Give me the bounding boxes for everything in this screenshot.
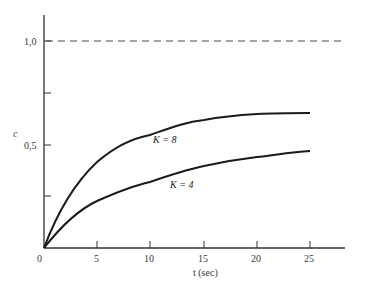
series-label-k4: K = 4 <box>169 179 193 190</box>
y-axis-label: c <box>13 128 18 139</box>
x-axis-label: t (sec) <box>193 267 218 279</box>
series-label-k8: K = 8 <box>152 134 176 145</box>
x-tick-label-20: 20 <box>251 253 261 264</box>
x-tick-label-5: 5 <box>94 253 99 264</box>
y-tick-label-10: 1,0 <box>24 36 37 47</box>
y-tick-label-05: 0,5 <box>24 140 37 151</box>
x-tick-label-15: 15 <box>198 253 208 264</box>
step-response-chart: 0 5 10 15 20 25 0,5 1,0 c t (sec) K = 8 … <box>0 0 369 289</box>
x-tick-label-0: 0 <box>37 253 42 264</box>
series-k4-curve <box>44 151 310 248</box>
x-tick-label-25: 25 <box>304 253 314 264</box>
x-ticks <box>97 241 310 248</box>
x-tick-label-10: 10 <box>144 253 154 264</box>
y-ticks <box>44 41 51 196</box>
